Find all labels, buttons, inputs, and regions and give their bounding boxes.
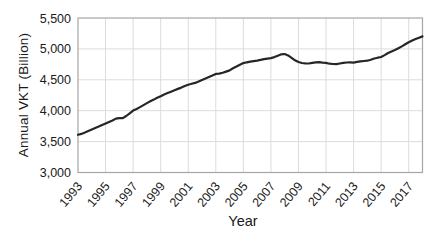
- y-tick-label: 3,500: [40, 135, 71, 149]
- y-tick-label: 4,500: [40, 73, 71, 87]
- x-tick-label: 1995: [84, 179, 113, 209]
- data-series-line: [78, 36, 423, 134]
- x-tick-label: 2015: [360, 179, 389, 209]
- plot-border: [78, 18, 423, 173]
- y-tick-label: 3,000: [40, 166, 71, 180]
- vkt-line-chart-figure: 3,0003,5004,0004,5005,0005,5001993199519…: [0, 0, 437, 237]
- x-tick-label: 1999: [139, 179, 168, 209]
- x-tick-label: 2001: [167, 179, 196, 209]
- y-tick-label: 5,500: [40, 12, 71, 26]
- x-tick-label: 2003: [194, 179, 223, 209]
- y-axis-title: Annual VKT (Billion): [16, 33, 31, 158]
- x-tick-label: 2013: [332, 179, 361, 209]
- x-axis-title: Year: [228, 213, 257, 229]
- x-tick-label: 2007: [250, 179, 279, 209]
- y-tick-label: 4,000: [40, 104, 71, 118]
- x-tick-label: 1993: [57, 179, 86, 209]
- x-tick-label: 2011: [305, 179, 333, 209]
- y-tick-label: 5,000: [40, 42, 71, 56]
- x-tick-label: 2005: [222, 179, 251, 209]
- x-tick-label: 2017: [387, 179, 416, 209]
- x-tick-label: 2009: [277, 179, 306, 209]
- x-tick-label: 1997: [112, 179, 141, 209]
- plot-area: 3,0003,5004,0004,5005,0005,5001993199519…: [0, 0, 437, 237]
